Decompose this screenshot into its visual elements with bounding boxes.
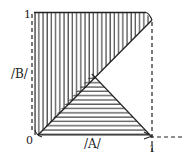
x-axis-label: /A/ [84,137,102,151]
unit-square-diagram: 1 /B/ 0 /A/ 1 [0,0,186,158]
origin-label: 0 [26,134,33,147]
top-left-one-label: 1 [24,8,31,21]
bottom-right-one-label: 1 [149,143,155,154]
y-axis-label: /B/ [11,67,29,81]
